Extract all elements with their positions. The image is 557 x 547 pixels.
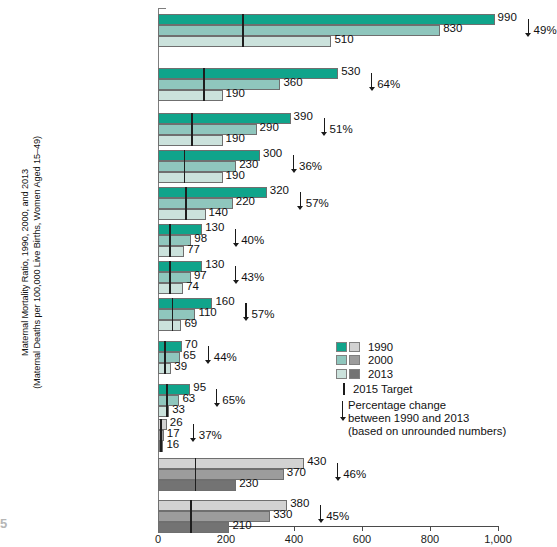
bar-group: 1601106957% <box>158 298 498 331</box>
bar-1990 <box>158 341 182 352</box>
bar-group: 38033021045% <box>158 500 498 533</box>
bar-2013 <box>158 320 181 331</box>
bar-2000 <box>158 511 270 522</box>
bar-2013 <box>158 522 229 533</box>
bar-2000 <box>158 161 236 172</box>
target-2015-marker <box>184 150 186 183</box>
bar-value-label: 16 <box>166 439 179 450</box>
bar-value-label: 830 <box>443 23 462 34</box>
legend-label: 2013 <box>368 368 393 380</box>
bar-value-label: 110 <box>198 307 216 318</box>
bar-2013 <box>158 246 184 257</box>
bar-1990 <box>158 458 304 469</box>
bar-value-label: 160 <box>215 296 234 307</box>
x-tick-label: 200 <box>217 533 235 545</box>
bar-value-label: 230 <box>239 159 258 170</box>
bar-group: 99083051049% <box>158 14 498 47</box>
legend-item: 2013 <box>336 367 536 381</box>
bar-value-label: 17 <box>167 428 180 439</box>
y-axis-top-tick <box>158 8 166 9</box>
bar-2013 <box>158 90 223 101</box>
bar-2013 <box>158 135 223 146</box>
bar-value-label: 370 <box>287 467 306 478</box>
legend-swatch-gray <box>349 355 360 365</box>
bar-value-label: 430 <box>307 456 326 467</box>
target-2015-marker <box>191 113 193 146</box>
legend-percentage-row: Percentage change between 1990 and 2013 … <box>338 399 536 439</box>
bar-value-label: 330 <box>273 509 292 520</box>
bar-value-label: 69 <box>184 318 197 329</box>
bar-2000 <box>158 79 280 90</box>
legend: 199020002013 2015 Target Percentage chan… <box>336 340 536 438</box>
percent-change-arrow-icon <box>371 73 372 88</box>
bar-value-label: 65 <box>183 350 196 361</box>
target-2015-marker <box>190 500 192 533</box>
bar-value-label: 130 <box>205 222 224 233</box>
legend-pct-line3: (based on unrounded numbers) <box>348 425 506 437</box>
target-2015-marker <box>172 298 174 331</box>
target-2015-marker <box>242 14 244 47</box>
bar-value-label: 360 <box>283 77 302 88</box>
percent-change-arrow-icon <box>293 155 294 170</box>
target-2015-marker <box>169 224 171 257</box>
bar-1990 <box>158 68 338 79</box>
bar-value-label: 33 <box>172 404 185 415</box>
x-tick-label: 800 <box>421 533 439 545</box>
bar-value-label: 990 <box>498 12 517 23</box>
legend-swatch-gray <box>349 369 360 379</box>
bar-2013 <box>158 172 223 183</box>
percent-change-label: 46% <box>343 468 366 480</box>
percent-change-label: 36% <box>299 160 322 172</box>
bar-2013 <box>158 209 206 220</box>
bar-group: 30023019036% <box>158 150 498 183</box>
bar-value-label: 190 <box>226 133 245 144</box>
percent-change-label: 51% <box>330 123 353 135</box>
x-tick <box>498 526 499 531</box>
bar-2013 <box>158 36 331 47</box>
percent-change-label: 43% <box>241 271 264 283</box>
percent-change-arrow-icon <box>300 192 301 207</box>
percent-change-arrow-icon <box>216 389 217 404</box>
percent-change-arrow-icon <box>235 266 236 281</box>
bar-value-label: 130 <box>205 259 224 270</box>
bar-value-label: 210 <box>232 520 251 531</box>
percent-change-label: 64% <box>377 78 400 90</box>
bar-value-label: 380 <box>290 498 309 509</box>
corner-caption-line1: 5 <box>0 516 7 531</box>
target-line-icon <box>343 383 345 395</box>
legend-pct-line2: between 1990 and 2013 <box>348 412 469 424</box>
percent-change-arrow-icon <box>324 118 325 133</box>
bar-group: 32022014057% <box>158 187 498 220</box>
legend-target-row: 2015 Target <box>338 382 536 397</box>
percent-change-label: 57% <box>306 197 329 209</box>
percent-change-label: 49% <box>534 24 557 36</box>
legend-swatch-teal <box>336 342 347 352</box>
bar-1990 <box>158 500 287 511</box>
percent-change-label: 65% <box>222 394 245 406</box>
bar-value-label: 77 <box>187 244 200 255</box>
percent-change-label: 40% <box>241 234 264 246</box>
legend-item: 2000 <box>336 354 536 368</box>
bar-group: 39029019051% <box>158 113 498 146</box>
bar-value-label: 26 <box>170 417 183 428</box>
bar-2013 <box>158 480 236 491</box>
bar-group: 43037023046% <box>158 458 498 491</box>
bar-value-label: 140 <box>209 207 228 218</box>
x-tick-label: 1,000 <box>484 533 512 545</box>
bar-value-label: 290 <box>260 122 279 133</box>
percent-change-label: 37% <box>199 429 222 441</box>
bar-value-label: 39 <box>174 361 187 372</box>
legend-label: 2000 <box>368 354 393 366</box>
percent-change-arrow-icon <box>208 346 209 361</box>
percent-change-label: 45% <box>326 510 349 522</box>
x-tick-label: 600 <box>353 533 371 545</box>
legend-swatch-gray <box>349 342 360 352</box>
y-axis-label: Maternal Mortality Ratio, 1990, 2000, an… <box>19 112 44 412</box>
legend-swatch-teal <box>336 355 347 365</box>
bar-value-label: 390 <box>294 111 313 122</box>
percent-change-arrow-icon <box>320 505 321 520</box>
bar-2000 <box>158 469 284 480</box>
percent-change-label: 44% <box>214 351 237 363</box>
percent-change-arrow-icon <box>245 303 246 318</box>
